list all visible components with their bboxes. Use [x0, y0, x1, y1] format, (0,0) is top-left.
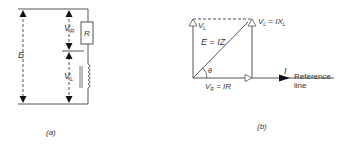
reference-label-line1: Reference	[294, 72, 331, 81]
reference-label-line2: line	[294, 81, 307, 90]
e-arrowhead-up	[20, 10, 27, 17]
e-arrowhead-down	[20, 96, 27, 103]
caption-b: (b)	[257, 122, 267, 131]
vr-arrowhead-down	[66, 43, 73, 50]
theta-label: θ	[208, 67, 212, 74]
vl-ixl-label: VL = IXL	[258, 17, 286, 27]
phasor-diagram: VL VL = IXL E = IZ θ VR = IR I Reference…	[189, 17, 334, 131]
e-phasor	[193, 22, 248, 78]
current-label: I	[284, 66, 287, 76]
vr-arrowhead-up	[66, 10, 73, 17]
e-label: E	[18, 50, 25, 60]
diagram-canvas: E VR R VL (a) VL VL = IXL	[0, 0, 347, 152]
resistor-label: R	[84, 29, 90, 38]
vr-phasor-head	[245, 75, 252, 82]
theta-arc	[203, 68, 207, 78]
vl-phasor-head	[189, 19, 197, 26]
vr-label: VR	[64, 23, 75, 34]
vl-top-label: VL	[198, 21, 206, 31]
vl-right-head	[248, 19, 256, 26]
vl-arrowhead-down	[66, 96, 73, 103]
vl-arrowhead-up	[66, 52, 73, 59]
circuit-diagram: E VR R VL (a)	[18, 9, 93, 137]
caption-a: (a)	[46, 128, 56, 137]
e-iz-label: E = IZ	[201, 37, 226, 47]
inductor	[88, 64, 90, 88]
vr-ir-label: VR = IR	[205, 82, 231, 92]
vl-label: VL	[64, 71, 73, 82]
